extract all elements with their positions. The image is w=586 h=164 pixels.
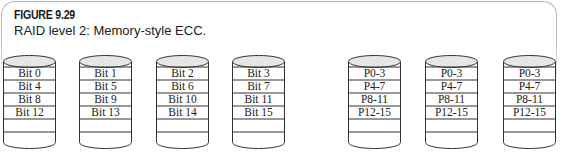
figure-caption: RAID level 2: Memory-style ECC. (14, 23, 206, 38)
disk-block: Bit 9 (79, 93, 132, 106)
disk-rows: Bit 3Bit 7Bit 11Bit 15 (232, 67, 285, 119)
disk-block: P4-7 (503, 80, 556, 93)
data-disk-2: Bit 2Bit 6Bit 10Bit 14 (156, 55, 209, 149)
disk-block: P12-15 (503, 106, 556, 119)
disk-block: Bit 14 (156, 106, 209, 119)
disk-block: Bit 15 (232, 106, 285, 119)
disk-block: Bit 2 (156, 67, 209, 80)
data-disk-0: Bit 0Bit 4Bit 8Bit 12 (3, 55, 56, 149)
disk-block: P0-3 (425, 67, 478, 80)
disk-block: P4-7 (425, 80, 478, 93)
figure-label: FIGURE 9.29 (14, 8, 75, 22)
disk-block: Bit 0 (3, 67, 56, 80)
disk-block: P12-15 (348, 106, 401, 119)
disk-block: Bit 10 (156, 93, 209, 106)
disk-block: P12-15 (425, 106, 478, 119)
disk-block: P4-7 (348, 80, 401, 93)
ecc-disk-2: P0-3P4-7P8-11P12-15 (503, 55, 556, 149)
disk-block: Bit 6 (156, 80, 209, 93)
disk-block: Bit 11 (232, 93, 285, 106)
data-disk-3: Bit 3Bit 7Bit 11Bit 15 (232, 55, 285, 149)
disk-block: P0-3 (348, 67, 401, 80)
disk-block: Bit 4 (3, 80, 56, 93)
disk-block: Bit 7 (232, 80, 285, 93)
data-disk-1: Bit 1Bit 5Bit 9Bit 13 (79, 55, 132, 149)
disk-block: Bit 8 (3, 93, 56, 106)
disk-rows: Bit 0Bit 4Bit 8Bit 12 (3, 67, 56, 119)
disk-block: P8-11 (503, 93, 556, 106)
disk-block: P8-11 (348, 93, 401, 106)
disk-block: Bit 3 (232, 67, 285, 80)
disk-rows: Bit 2Bit 6Bit 10Bit 14 (156, 67, 209, 119)
disk-block: Bit 5 (79, 80, 132, 93)
disk-rows: P0-3P4-7P8-11P12-15 (503, 67, 556, 119)
ecc-disk-0: P0-3P4-7P8-11P12-15 (348, 55, 401, 149)
ecc-disk-1: P0-3P4-7P8-11P12-15 (425, 55, 478, 149)
disk-block: P8-11 (425, 93, 478, 106)
disk-block: Bit 12 (3, 106, 56, 119)
disk-rows: Bit 1Bit 5Bit 9Bit 13 (79, 67, 132, 119)
disk-block: Bit 1 (79, 67, 132, 80)
disk-rows: P0-3P4-7P8-11P12-15 (425, 67, 478, 119)
disk-rows: P0-3P4-7P8-11P12-15 (348, 67, 401, 119)
disk-block: Bit 13 (79, 106, 132, 119)
disk-block: P0-3 (503, 67, 556, 80)
